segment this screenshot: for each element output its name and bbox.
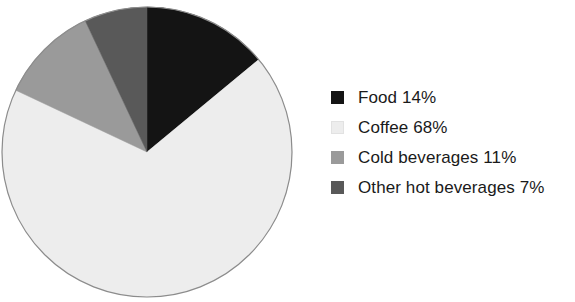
pie-chart-svg — [0, 4, 296, 298]
legend-item-coffee: Coffee 68% — [331, 112, 575, 142]
legend-item-cold-beverages: Cold beverages 11% — [331, 142, 575, 172]
legend-item-food: Food 14% — [331, 82, 575, 112]
pie-chart-figure: Food 14%Coffee 68%Cold beverages 11%Othe… — [0, 0, 575, 302]
legend-item-other-hot-beverages: Other hot beverages 7% — [331, 172, 575, 202]
legend-swatch-icon — [331, 121, 344, 134]
pie-slice-group — [2, 7, 292, 297]
chart-legend: Food 14%Coffee 68%Cold beverages 11%Othe… — [331, 82, 575, 202]
legend-swatch-icon — [331, 91, 344, 104]
pie-chart-plot-area — [0, 4, 296, 298]
legend-item-label: Food 14% — [358, 88, 436, 107]
legend-swatch-icon — [331, 151, 344, 164]
legend-item-label: Cold beverages 11% — [358, 148, 516, 167]
legend-item-label: Other hot beverages 7% — [358, 178, 544, 197]
legend-item-label: Coffee 68% — [358, 118, 448, 137]
legend-swatch-icon — [331, 181, 344, 194]
